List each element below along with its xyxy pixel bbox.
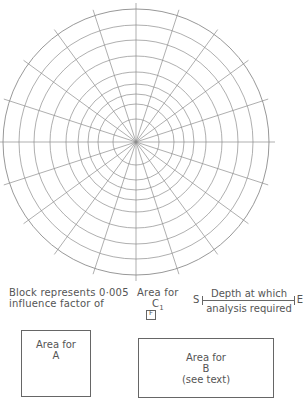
block-text-line2: influence factor of bbox=[9, 298, 129, 309]
radial-line-3 bbox=[136, 30, 218, 142]
radial-line-8 bbox=[136, 142, 248, 224]
block-text-line1: Block represents 0·005 bbox=[9, 287, 129, 298]
radial-line-14 bbox=[24, 142, 136, 224]
area-a-box: Area for A bbox=[21, 330, 91, 397]
area-c1-box: F bbox=[146, 310, 156, 320]
radial-line-2 bbox=[136, 10, 179, 142]
radial-line-19 bbox=[54, 30, 136, 142]
radial-line-17 bbox=[4, 99, 136, 142]
area-a-line1: Area for bbox=[22, 339, 90, 350]
radial-line-18 bbox=[24, 60, 136, 142]
depth-scale: S E Depth at which analysis required bbox=[193, 288, 305, 316]
radial-line-10 bbox=[136, 142, 179, 274]
area-a-line2: A bbox=[22, 350, 90, 361]
radial-line-4 bbox=[136, 60, 248, 142]
radial-line-20 bbox=[93, 10, 136, 142]
depth-scale-bottom-text: analysis required bbox=[193, 303, 305, 314]
c-subscript: 1 bbox=[159, 304, 164, 312]
depth-scale-top-text: Depth at which bbox=[193, 288, 305, 299]
radial-line-5 bbox=[136, 99, 268, 142]
influence-chart bbox=[0, 0, 306, 285]
area-b-line3: (see text) bbox=[139, 374, 273, 385]
area-b-line1: Area for bbox=[139, 352, 273, 363]
depth-scale-line bbox=[202, 300, 295, 301]
radial-line-15 bbox=[4, 142, 136, 185]
influence-chart-radial-lines bbox=[0, 3, 275, 281]
radial-line-7 bbox=[136, 142, 268, 185]
area-b-line2: B bbox=[139, 363, 273, 374]
block-influence-text: Block represents 0·005 influence factor … bbox=[9, 287, 129, 309]
radial-line-12 bbox=[93, 142, 136, 274]
radial-line-9 bbox=[136, 142, 218, 254]
area-c1-label: Area for bbox=[137, 287, 177, 298]
area-b-box: Area for B (see text) bbox=[138, 338, 274, 398]
area-c1-mark: F bbox=[149, 309, 153, 317]
radial-line-13 bbox=[54, 142, 136, 254]
